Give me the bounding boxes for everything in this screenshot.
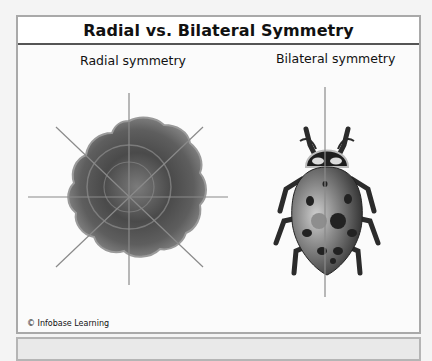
ladybug-illustration xyxy=(276,129,378,275)
image-credit: © Infobase Learning xyxy=(27,319,109,328)
next-figure-frame xyxy=(16,337,421,361)
figure-frame: Radial vs. Bilateral Symmetry Radial sym… xyxy=(16,15,421,334)
radial-organism-illustration xyxy=(18,17,419,332)
